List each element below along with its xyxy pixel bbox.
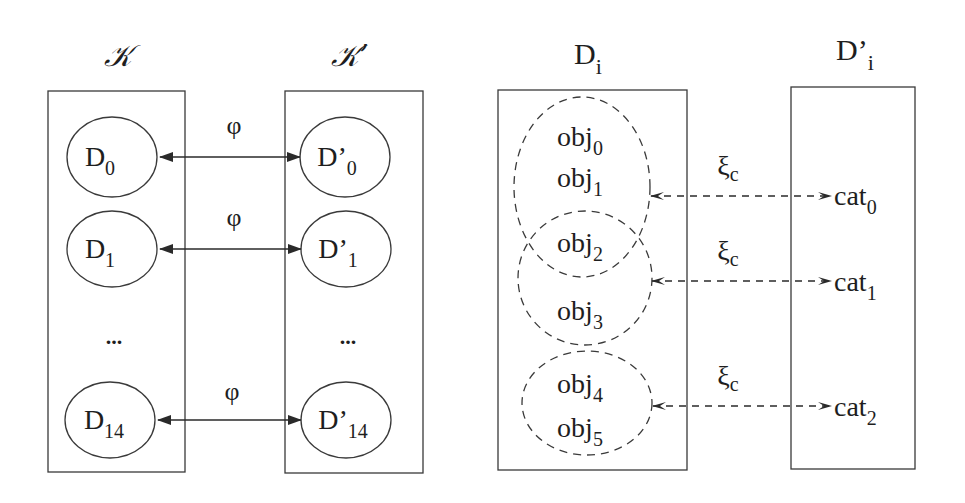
node-d14-label: D14 bbox=[84, 404, 124, 442]
phi-label-1: φ bbox=[226, 203, 241, 232]
set-k-prime-ellipsis: ... bbox=[340, 324, 357, 349]
set-d-i-prime-label: D’i bbox=[836, 33, 874, 75]
node-d14[interactable]: D14 bbox=[65, 382, 155, 458]
object-obj5: obj5 bbox=[557, 412, 603, 450]
diagram-canvas: 𝒦 D0 D1 ... D14 𝒦’ D’0 D’1 ... D’1 bbox=[0, 0, 965, 503]
object-obj0: obj0 bbox=[557, 121, 603, 159]
phi-mapping-1[interactable]: φ bbox=[160, 203, 301, 249]
xi-mapping-0[interactable]: ξc bbox=[651, 150, 831, 196]
node-d0-prime-label: D’0 bbox=[317, 141, 357, 179]
object-obj3: obj3 bbox=[557, 295, 603, 333]
node-d1-prime-label: D’1 bbox=[318, 233, 358, 271]
set-d-i-group: Di obj0 obj1 obj2 obj3 obj4 obj5 bbox=[498, 37, 687, 470]
set-d-i-prime-group: D’i cat0 cat1 cat2 bbox=[791, 33, 915, 469]
node-d0-prime[interactable]: D’0 bbox=[300, 117, 390, 197]
node-d14-prime-label: D’14 bbox=[318, 404, 368, 442]
category-cat1[interactable]: cat1 bbox=[834, 266, 877, 304]
object-obj2: obj2 bbox=[557, 227, 603, 265]
node-d1-label: D1 bbox=[85, 233, 115, 271]
set-k-ellipsis: ... bbox=[106, 324, 123, 349]
node-d1-prime[interactable]: D’1 bbox=[301, 211, 391, 287]
set-k-prime-label: 𝒦’ bbox=[331, 38, 369, 73]
set-k-label: 𝒦 bbox=[104, 38, 141, 73]
xi-label-1: ξc bbox=[717, 235, 738, 270]
phi-mapping-0[interactable]: φ bbox=[160, 111, 300, 157]
node-d0-label: D0 bbox=[85, 141, 115, 179]
xi-label-0: ξc bbox=[717, 150, 738, 185]
phi-label-0: φ bbox=[226, 111, 241, 140]
xi-label-2: ξc bbox=[717, 360, 738, 395]
phi-mapping-2[interactable]: φ bbox=[158, 377, 301, 420]
object-obj1: obj1 bbox=[557, 162, 603, 200]
node-d0[interactable]: D0 bbox=[67, 117, 157, 197]
set-k-group: 𝒦 D0 D1 ... D14 bbox=[48, 38, 185, 472]
xi-mapping-1[interactable]: ξc bbox=[652, 235, 831, 281]
set-k-prime-box bbox=[285, 91, 423, 473]
set-k-prime-group: 𝒦’ D’0 D’1 ... D’14 bbox=[285, 38, 423, 473]
set-d-i-label: Di bbox=[574, 37, 602, 79]
object-obj4: obj4 bbox=[557, 368, 603, 406]
node-d1[interactable]: D1 bbox=[67, 211, 157, 287]
category-cat0[interactable]: cat0 bbox=[834, 180, 877, 218]
node-d14-prime[interactable]: D’14 bbox=[301, 382, 391, 458]
category-cat2[interactable]: cat2 bbox=[834, 391, 877, 429]
xi-mapping-2[interactable]: ξc bbox=[653, 360, 831, 406]
phi-label-2: φ bbox=[224, 377, 239, 406]
